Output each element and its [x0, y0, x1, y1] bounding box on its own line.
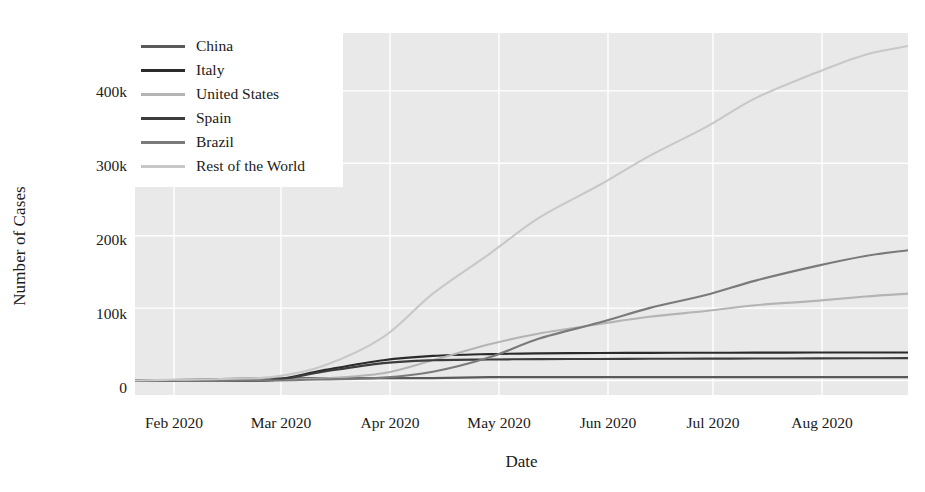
legend-item-italy[interactable]: Italy [141, 58, 333, 82]
legend-swatch-icon [141, 69, 185, 72]
chart-legend: ChinaItalyUnited StatesSpainBrazilRest o… [131, 26, 343, 187]
legend-item-label: China [196, 38, 233, 54]
y-axis-tick-labels: 0 100k 200k 300k 400k [0, 0, 127, 492]
y-tick-200k: 200k [7, 231, 127, 249]
x-tick-may: May 2020 [467, 414, 530, 432]
x-tick-jun: Jun 2020 [580, 414, 636, 432]
legend-item-label: Italy [196, 62, 224, 78]
legend-swatch-icon [141, 117, 185, 120]
legend-item-rest-of-the-world[interactable]: Rest of the World [141, 154, 333, 178]
y-tick-300k: 300k [7, 157, 127, 175]
y-tick-100k: 100k [7, 305, 127, 323]
x-tick-aug: Aug 2020 [791, 414, 853, 432]
legend-item-spain[interactable]: Spain [141, 106, 333, 130]
legend-swatch-icon [141, 93, 185, 96]
legend-swatch-icon [141, 165, 185, 168]
legend-item-label: Spain [196, 110, 231, 126]
y-tick-0: 0 [7, 379, 127, 397]
x-tick-jul: Jul 2020 [687, 414, 740, 432]
legend-item-brazil[interactable]: Brazil [141, 130, 333, 154]
series-line-united-states [135, 294, 908, 381]
legend-item-label: United States [196, 86, 279, 102]
x-tick-feb: Feb 2020 [145, 414, 203, 432]
legend-item-china[interactable]: China [141, 34, 333, 58]
legend-swatch-icon [141, 141, 185, 144]
chart-figure: Number of Cases 0 100k 200k 300k 400k Fe… [0, 0, 925, 492]
legend-item-label: Rest of the World [196, 158, 305, 174]
x-tick-mar: Mar 2020 [251, 414, 312, 432]
legend-item-united-states[interactable]: United States [141, 82, 333, 106]
y-tick-400k: 400k [7, 83, 127, 101]
x-tick-apr: Apr 2020 [361, 414, 420, 432]
legend-item-label: Brazil [196, 134, 234, 150]
series-line-brazil [135, 250, 908, 380]
x-axis-label: Date [135, 452, 908, 472]
legend-swatch-icon [141, 45, 185, 48]
